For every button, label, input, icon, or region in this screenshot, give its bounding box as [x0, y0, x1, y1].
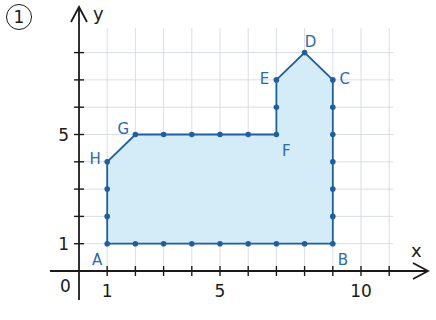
boundary-point	[245, 132, 251, 138]
boundary-point	[104, 214, 110, 220]
coordinate-plane: 151015 ABCDEFGH	[0, 0, 436, 320]
boundary-point	[217, 132, 223, 138]
vertex-label-e: E	[260, 70, 269, 88]
boundary-point	[302, 241, 308, 247]
boundary-point	[330, 159, 336, 165]
boundary-point	[133, 241, 139, 247]
exercise-number-badge: 1	[6, 4, 32, 30]
x-tick-label: 10	[350, 281, 372, 301]
boundary-point	[274, 241, 280, 247]
boundary-point	[245, 241, 251, 247]
boundary-point	[217, 241, 223, 247]
x-axis-label: x	[411, 240, 422, 261]
boundary-point	[189, 132, 195, 138]
origin-label: 0	[60, 276, 71, 296]
boundary-point	[330, 214, 336, 220]
boundary-point	[330, 132, 336, 138]
boundary-point	[161, 132, 167, 138]
vertex-label-b: B	[338, 251, 348, 269]
vertex-label-h: H	[90, 150, 101, 168]
boundary-point	[330, 186, 336, 192]
boundary-point	[104, 186, 110, 192]
boundary-point	[161, 241, 167, 247]
boundary-point	[104, 159, 110, 165]
vertex-label-c: C	[340, 70, 350, 88]
exercise-number: 1	[14, 7, 25, 27]
boundary-point	[330, 241, 336, 247]
y-axis-label: y	[93, 3, 104, 24]
boundary-point	[189, 241, 195, 247]
boundary-point	[274, 77, 280, 83]
y-tick-label: 5	[58, 125, 69, 145]
coordinate-diagram: 151015 ABCDEFGH 1 y x 0	[0, 0, 436, 320]
vertex-label-g: G	[118, 120, 130, 138]
boundary-point	[104, 241, 110, 247]
boundary-point	[274, 104, 280, 110]
x-tick-label: 5	[215, 281, 226, 301]
vertex-label-d: D	[305, 33, 317, 51]
boundary-point	[133, 132, 139, 138]
boundary-point	[274, 132, 280, 138]
x-tick-label: 1	[102, 281, 113, 301]
y-tick-label: 1	[58, 234, 69, 254]
boundary-point	[330, 77, 336, 83]
vertex-label-f: F	[282, 142, 291, 160]
boundary-point	[302, 50, 308, 56]
vertex-label-a: A	[92, 251, 103, 269]
boundary-point	[330, 104, 336, 110]
